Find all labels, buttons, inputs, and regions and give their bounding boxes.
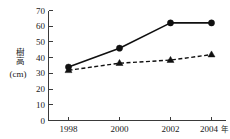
y-tick-label-30: 30 xyxy=(36,68,46,78)
y-tick-label-20: 20 xyxy=(36,84,46,94)
y-tick-label-10: 10 xyxy=(36,100,46,110)
y-tick-label-0: 0 xyxy=(41,116,46,126)
x-axis-ticks: 1998 2000 2002 2004 年 xyxy=(60,117,230,135)
x-axis-year-suffix: 年 xyxy=(221,124,229,134)
y-axis-title-char-2: 高 xyxy=(16,56,25,66)
y-axis-unit-label: (cm) xyxy=(10,69,27,79)
y-tick-label-70: 70 xyxy=(36,6,46,16)
series-dashed-triangle xyxy=(65,51,215,73)
dashed-series-line xyxy=(69,55,212,71)
triangle-marker-2004 xyxy=(208,51,215,57)
solid-series-line xyxy=(69,23,212,67)
y-tick-label-50: 50 xyxy=(36,37,46,47)
x-tick-label-1998: 1998 xyxy=(60,124,79,134)
x-tick-label-2000: 2000 xyxy=(111,124,130,134)
y-axis-title: 樹 高 (cm) xyxy=(10,47,27,79)
x-tick-label-2004: 2004 xyxy=(200,124,219,134)
y-tick-label-40: 40 xyxy=(36,53,46,63)
chart-canvas: 樹 高 (cm) 0 10 20 30 40 50 60 70 xyxy=(0,0,230,139)
tree-height-line-chart: 樹 高 (cm) 0 10 20 30 40 50 60 70 xyxy=(0,0,230,139)
circle-marker-2004 xyxy=(208,20,214,26)
circle-marker-2002 xyxy=(167,20,173,26)
circle-marker-2000 xyxy=(116,45,122,51)
x-tick-label-2002: 2002 xyxy=(162,124,180,134)
y-axis-ticks: 0 10 20 30 40 50 60 70 xyxy=(36,6,53,126)
circle-marker-1998 xyxy=(65,64,71,70)
y-tick-label-60: 60 xyxy=(36,21,46,31)
